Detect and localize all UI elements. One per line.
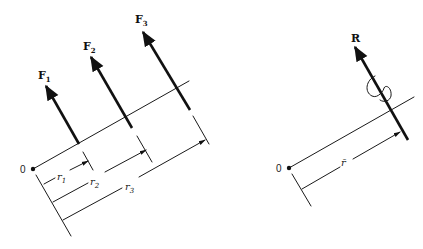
extension-line-3: [193, 116, 209, 144]
r3-dimension-left: [63, 188, 122, 220]
r1-dimension-left: [44, 178, 55, 184]
r2-label: r2: [90, 176, 100, 190]
force-f2-label: F2: [83, 40, 96, 55]
force-f1-arrow: [46, 86, 79, 144]
r1-label: r1: [57, 171, 66, 185]
rbar-dimension-left: [302, 167, 340, 189]
origin-label: 0: [20, 164, 26, 175]
force-f3-label: F3: [135, 13, 148, 28]
force-f2-arrow: [91, 57, 132, 128]
r2-dimension-left: [53, 183, 88, 202]
rbar-label: r̄: [341, 157, 347, 168]
force-f3-arrow: [143, 32, 190, 110]
extension-line-2: [137, 136, 152, 162]
right-diagram: 0 R r̄: [276, 32, 414, 206]
r3-dimension-arrow: [139, 140, 205, 177]
r1-dimension-arrow: [70, 161, 88, 170]
resultant-r-label: R: [351, 32, 361, 45]
force-diagram: 0 F1 F2 F3 r1 r2 r3 0: [0, 0, 423, 249]
force-f1-label: F1: [38, 69, 51, 84]
reference-line-right: [289, 97, 414, 168]
left-diagram: 0 F1 F2 F3 r1 r2 r3: [20, 13, 209, 236]
perpendicular-base-line-right: [292, 174, 311, 206]
origin-label-right: 0: [276, 163, 282, 174]
rbar-dimension-arrow: [353, 132, 400, 159]
r3-label: r3: [125, 181, 135, 195]
origin-point: [31, 167, 35, 171]
r2-dimension-arrow: [105, 150, 146, 172]
origin-point-right: [287, 166, 291, 170]
